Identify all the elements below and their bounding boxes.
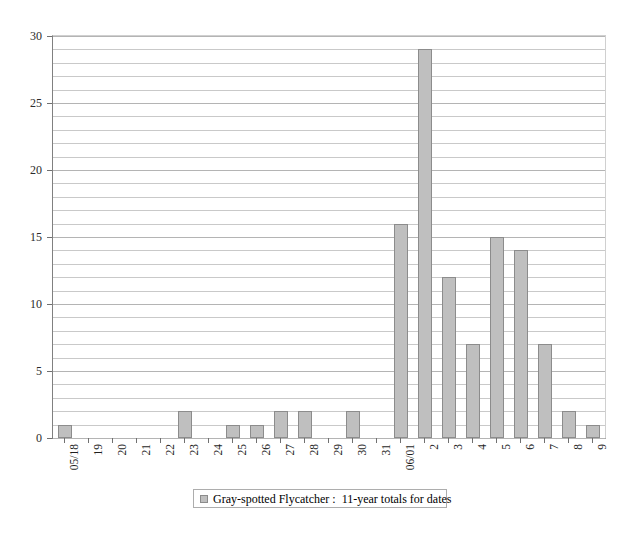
bar [466,344,480,438]
x-axis-tick-label: 9 [597,444,609,450]
x-axis-tick-label: 6 [525,444,537,450]
x-axis-tick [376,438,377,443]
x-axis-tick [208,438,209,443]
plot-area [52,35,606,439]
x-axis-tick [328,438,329,443]
x-axis-labels: 05/181920212223242526272829303106/012345… [52,444,605,492]
legend: Gray-spotted Flycatcher : 11-year totals… [193,489,447,508]
x-axis-tick [184,438,185,443]
bars-layer [53,36,605,438]
x-axis-tick-label: 24 [213,444,225,456]
x-axis-tick-label: 29 [333,444,345,456]
bar [562,411,576,438]
bar [58,425,72,438]
bar [394,224,408,438]
x-axis-tick-label: 5 [501,444,513,450]
x-axis-tick [352,438,353,443]
x-axis-tick [472,438,473,443]
top-caption [8,0,623,5]
x-axis-tick [592,438,593,443]
legend-swatch-icon [200,495,208,503]
x-axis-tick [496,438,497,443]
x-axis-tick-label: 26 [261,444,273,456]
y-axis-tick-label: 30 [2,30,42,42]
legend-label: Gray-spotted Flycatcher : 11-year totals… [213,493,451,505]
bar [250,425,264,438]
x-axis-tick-label: 28 [309,444,321,456]
y-axis-tick-label: 0 [2,432,42,444]
x-axis-tick-label: 8 [573,444,585,450]
x-axis-tick [424,438,425,443]
bar [490,237,504,438]
x-axis-tick-label: 2 [429,444,441,450]
x-axis-tick [232,438,233,443]
x-axis-tick [112,438,113,443]
x-axis-tick [520,438,521,443]
x-axis-tick [136,438,137,443]
x-axis-tick-label: 7 [549,444,561,450]
bar [274,411,288,438]
bar [442,277,456,438]
y-axis-tick-label: 10 [2,298,42,310]
bar [586,425,600,438]
x-axis-tick [448,438,449,443]
bar [226,425,240,438]
bar [538,344,552,438]
y-axis-tick-label: 15 [2,231,42,243]
x-axis-tick-label: 4 [477,444,489,450]
x-axis-tick-label: 23 [189,444,201,456]
bar [514,250,528,438]
x-axis-tick [256,438,257,443]
bar [346,411,360,438]
x-axis-tick [88,438,89,443]
x-axis-tick-label: 27 [285,444,297,456]
x-axis-tick-label: 3 [453,444,465,450]
x-axis-tick [568,438,569,443]
x-axis-tick [160,438,161,443]
y-axis-tick-label: 20 [2,164,42,176]
x-axis-tick-label: 05/18 [69,444,81,470]
bar-chart: 051015202530 05/181920212223242526272829… [0,0,631,533]
y-axis-tick-label: 5 [2,365,42,377]
x-axis-tick [544,438,545,443]
y-axis: 051015202530 [0,35,52,438]
y-axis-tick-label: 25 [2,97,42,109]
x-axis-tick [304,438,305,443]
bar [418,49,432,438]
x-axis-tick-label: 22 [165,444,177,456]
x-axis-tick-label: 20 [117,444,129,456]
x-axis-tick-label: 19 [93,444,105,456]
x-axis-tick-label: 31 [381,444,393,456]
x-axis-tick [64,438,65,443]
x-axis-tick-label: 06/01 [405,444,417,470]
bar [178,411,192,438]
x-axis-tick [280,438,281,443]
x-axis-tick [400,438,401,443]
bar [298,411,312,438]
x-axis-tick-label: 30 [357,444,369,456]
x-axis-tick-label: 25 [237,444,249,456]
x-axis-tick-label: 21 [141,444,153,456]
